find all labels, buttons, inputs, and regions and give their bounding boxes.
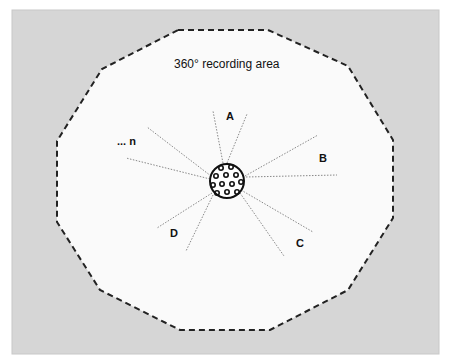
label-n: ... n: [117, 135, 136, 147]
recording-area-diagram: 360° recording area A B C D ... n: [0, 0, 449, 358]
diagram-title: 360° recording area: [174, 57, 280, 71]
label-b: B: [319, 152, 327, 164]
microphone-array-icon: [210, 164, 244, 198]
label-d: D: [170, 227, 178, 239]
label-c: C: [296, 237, 304, 249]
label-a: A: [226, 110, 234, 122]
